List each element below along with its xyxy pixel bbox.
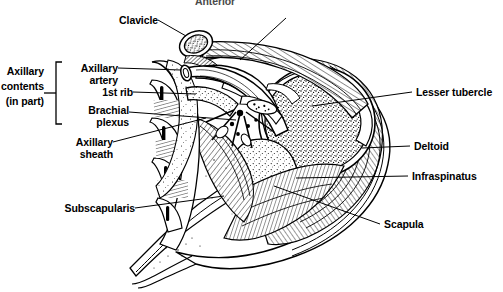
axillary-contents-label-line2: contents	[0, 80, 44, 92]
label-brachial-plexus-line2: plexus	[66, 116, 129, 128]
label-clavicle: Clavicle	[70, 14, 158, 26]
label-first-rib: 1st rib	[72, 86, 133, 98]
label-axillary-artery-line1: Axillary	[66, 62, 118, 74]
figure-orientation-title: Anterior	[160, 0, 270, 7]
label-axillary-sheath-line1: Axillary	[50, 136, 113, 148]
label-brachial-plexus-line1: Brachial	[66, 104, 129, 116]
anatomical-figure-page: Anterior Axillary contents (in part) Cla…	[0, 0, 503, 292]
axillary-contents-bracket	[44, 62, 62, 124]
label-subscapularis: Subscapularis	[40, 202, 135, 214]
label-scapula: Scapula	[384, 218, 424, 230]
label-axillary-artery-line2: artery	[66, 74, 118, 86]
label-deltoid: Deltoid	[414, 140, 449, 152]
label-axillary-sheath-line2: sheath	[50, 148, 113, 160]
axillary-contents-label-line1: Axillary	[0, 65, 44, 77]
label-lesser-tubercle: Lesser tubercle	[416, 86, 492, 98]
label-infraspinatus: Infraspinatus	[412, 170, 477, 182]
axillary-contents-label-line3: (in part)	[0, 95, 44, 107]
